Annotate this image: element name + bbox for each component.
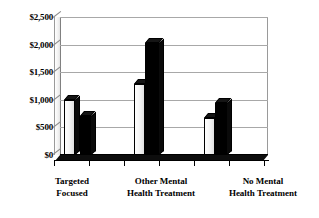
- x-axis-label-line-2: Health Treatment: [111, 188, 211, 200]
- bar-series2-targeted-focused[interactable]: [80, 116, 91, 155]
- depth-connector-500: [53, 127, 61, 134]
- depth-connector-2500: [53, 17, 61, 24]
- x-axis: [54, 161, 269, 167]
- x-axis-tick-6: [264, 161, 265, 166]
- depth-connector-2000: [53, 45, 61, 52]
- y-axis-tick-0: $0: [0, 151, 53, 160]
- depth-connector-1000: [53, 100, 61, 107]
- bar-series2-other-mental-health-treatment[interactable]: [145, 43, 159, 155]
- x-axis-tick-2: [124, 161, 125, 166]
- bar-front-face: [215, 103, 227, 155]
- depth-connector-1500: [53, 72, 61, 79]
- x-axis-label-targeted-focused: Targeted Focused: [36, 176, 108, 199]
- bar-chart: $2,500 $2,000 $1,500 $1,000 $500 $0: [0, 0, 319, 218]
- x-axis-label-line-1: No Mental: [243, 176, 284, 186]
- x-axis-tick-3: [159, 161, 160, 166]
- bar-side-face: [91, 112, 96, 155]
- bar-front-face: [204, 118, 215, 155]
- bar-front-face: [80, 116, 91, 155]
- x-axis-tick-5: [229, 161, 230, 166]
- gridline-2000: [60, 45, 268, 46]
- bar-front-face: [134, 84, 145, 155]
- x-axis-label-line-1: Targeted: [55, 176, 89, 186]
- bar-series1-other-mental-health-treatment[interactable]: [134, 84, 145, 155]
- bar-front-face: [145, 43, 159, 155]
- bar-side-face: [159, 39, 164, 155]
- x-axis-tick-0: [54, 161, 55, 166]
- bar-side-face: [227, 98, 232, 155]
- gridline-2500: [60, 17, 268, 18]
- x-axis-label-line-1: Other Mental: [135, 176, 188, 186]
- bar-front-face: [64, 100, 75, 155]
- x-axis-tick-4: [194, 161, 195, 166]
- y-axis-tick-2500: $2,500: [0, 13, 53, 22]
- x-axis-tick-1: [89, 161, 90, 166]
- x-axis-label-line-2: Focused: [36, 188, 108, 200]
- bar-series1-no-mental-health-treatment[interactable]: [204, 118, 215, 155]
- x-axis-labels: Targeted Focused Other Mental Health Tre…: [0, 176, 319, 218]
- bar-series1-targeted-focused[interactable]: [64, 100, 75, 155]
- bar-series2-no-mental-health-treatment[interactable]: [215, 103, 227, 155]
- x-axis-label-no-mental-health-treatment: No Mental Health Treatment: [213, 176, 313, 199]
- gridline-1500: [60, 72, 268, 73]
- gridline-1000: [60, 100, 268, 101]
- plot-area: [60, 17, 268, 155]
- y-axis-tick-1500: $1,500: [0, 68, 53, 77]
- y-axis-tick-500: $500: [0, 123, 53, 132]
- y-axis-tick-2000: $2,000: [0, 41, 53, 50]
- x-axis-label-other-mental-health-treatment: Other Mental Health Treatment: [111, 176, 211, 199]
- y-axis-tick-1000: $1,000: [0, 96, 53, 105]
- x-axis-label-line-2: Health Treatment: [213, 188, 313, 200]
